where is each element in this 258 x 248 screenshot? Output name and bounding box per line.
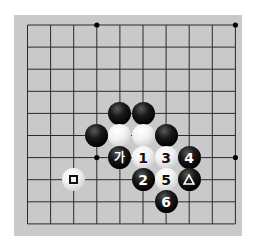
white-stone: 3 <box>155 146 178 169</box>
star-point <box>94 22 99 27</box>
move-label: 5 <box>161 173 171 187</box>
go-board <box>14 15 242 236</box>
move-label: 4 <box>184 151 194 165</box>
black-stone: 4 <box>178 146 201 169</box>
black-stone <box>155 124 178 147</box>
move-label: 2 <box>138 173 148 187</box>
move-label: 1 <box>138 151 148 165</box>
square-mark-icon <box>69 175 78 184</box>
move-label: 가 <box>114 152 125 164</box>
white-stone <box>132 124 155 147</box>
black-stone <box>132 102 155 125</box>
move-label: 6 <box>161 195 171 209</box>
white-stone: 5 <box>155 168 178 191</box>
white-stone: 1 <box>132 146 155 169</box>
black-stone: 2 <box>132 168 155 191</box>
star-point <box>233 22 238 27</box>
move-label: 3 <box>161 151 171 165</box>
black-stone <box>178 168 201 191</box>
triangle-mark-icon <box>183 174 195 185</box>
board-grid <box>14 15 242 236</box>
star-point <box>94 155 99 160</box>
star-point <box>233 155 238 160</box>
black-stone: 6 <box>155 190 178 213</box>
